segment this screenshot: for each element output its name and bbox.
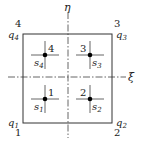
corner-label-4: q4 (8, 29, 19, 42)
corner-number-3: 3 (114, 18, 120, 29)
element-diagram: η ξ 4 3 1 2 s4 s3 s1 s2 4 3 1 2 q4 q3 q1… (0, 0, 143, 142)
sample-label-4: s4 (34, 57, 44, 70)
corner-number-4: 4 (15, 18, 21, 29)
sample-label-3: s3 (92, 57, 102, 70)
eta-label: η (64, 1, 71, 14)
sample-number-2: 2 (80, 87, 86, 98)
corner-number-2: 2 (114, 127, 120, 138)
sample-label-1: s1 (34, 101, 44, 114)
corner-label-3: q3 (116, 29, 127, 42)
sample-number-1: 1 (48, 87, 54, 98)
sample-label-2: s2 (92, 101, 102, 114)
xi-label: ξ (128, 71, 135, 84)
sample-number-4: 4 (48, 43, 54, 54)
sample-number-3: 3 (80, 43, 86, 54)
corner-label-1: q1 (8, 117, 19, 130)
